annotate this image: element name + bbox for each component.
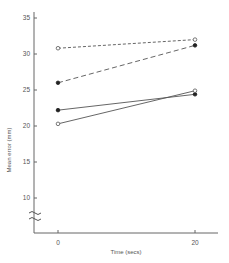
x-tick-label: 20: [191, 239, 199, 246]
filled-circle-marker: [56, 81, 60, 85]
open-circle-marker: [56, 122, 60, 126]
x-tick-label: 0: [56, 239, 60, 246]
series-group: [56, 38, 197, 126]
series-line: [58, 91, 195, 124]
y-tick-label: 35: [23, 14, 31, 21]
data-series: [56, 44, 197, 85]
x-ticks: 020: [56, 230, 199, 246]
data-series: [56, 38, 197, 50]
y-tick-label: 30: [23, 50, 31, 57]
open-circle-marker: [193, 38, 197, 42]
series-line: [58, 40, 195, 49]
y-tick-label: 25: [23, 86, 31, 93]
y-tick-label: 20: [23, 122, 31, 129]
chart-svg: 101520253035 020 Mean error (mm) Time (s…: [0, 0, 229, 263]
filled-circle-marker: [193, 93, 197, 97]
axis-break-icon: [29, 212, 41, 221]
open-circle-marker: [193, 89, 197, 93]
filled-circle-marker: [193, 44, 197, 48]
series-line: [58, 94, 195, 110]
data-series: [56, 89, 197, 126]
x-axis-label: Time (secs): [110, 249, 141, 255]
series-line: [58, 45, 195, 82]
y-ticks: 101520253035: [23, 14, 37, 201]
filled-circle-marker: [56, 108, 60, 112]
line-chart: 101520253035 020 Mean error (mm) Time (s…: [0, 0, 229, 263]
y-axis-label: Mean error (mm): [6, 127, 12, 172]
open-circle-marker: [56, 46, 60, 50]
y-tick-label: 15: [23, 158, 31, 165]
y-tick-label: 10: [23, 194, 31, 201]
